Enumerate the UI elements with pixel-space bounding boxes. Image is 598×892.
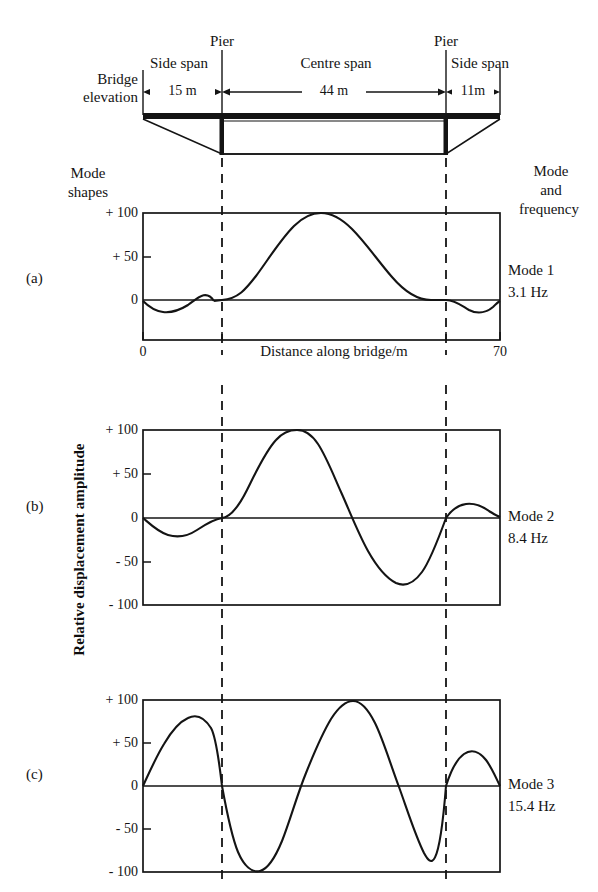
mode2-plot bbox=[143, 430, 500, 605]
pier-label-left: Pier bbox=[182, 33, 262, 50]
mode3-ytick-minus50: - 50 bbox=[62, 821, 138, 837]
mode2-plot-frame bbox=[143, 430, 500, 605]
panel-label-a: (a) bbox=[26, 270, 43, 287]
mode1-ytick-50: + 50 bbox=[62, 249, 138, 265]
mode2-ytick-50: + 50 bbox=[62, 466, 138, 482]
mode1-xaxis bbox=[143, 332, 500, 340]
mode1-frequency: 3.1 Hz bbox=[508, 284, 548, 301]
xaxis-tick-left: 0 bbox=[126, 344, 160, 360]
panel-label-b: (b) bbox=[26, 498, 44, 515]
mode1-ytick-0: 0 bbox=[62, 292, 138, 308]
mode3-plot-frame bbox=[143, 700, 500, 872]
mode3-ytick-0: 0 bbox=[62, 778, 138, 794]
bridge-elevation-label-line2: elevation bbox=[40, 89, 138, 106]
pier-label-right: Pier bbox=[406, 33, 486, 50]
xaxis-tick-right: 70 bbox=[483, 344, 517, 360]
mode-freq-title-line2: and bbox=[505, 182, 597, 199]
mode2-ytick-0: 0 bbox=[62, 510, 138, 526]
mode2-name: Mode 2 bbox=[508, 508, 554, 525]
mode1-name: Mode 1 bbox=[508, 262, 554, 279]
mode-freq-title-line1: Mode bbox=[505, 163, 597, 180]
mode3-name: Mode 3 bbox=[508, 776, 554, 793]
dimension-side-left: 15 m bbox=[150, 83, 215, 99]
centre-span-label: Centre span bbox=[276, 55, 396, 72]
mode3-ytick-50: + 50 bbox=[62, 735, 138, 751]
dimension-centre: 44 m bbox=[302, 83, 366, 99]
mode1-ytick-100: + 100 bbox=[62, 205, 138, 221]
dimension-side-right: 11m bbox=[452, 83, 494, 99]
panel-label-c: (c) bbox=[26, 766, 43, 783]
mode-freq-title-line3: frequency bbox=[501, 201, 597, 218]
mode2-ytick-100: + 100 bbox=[62, 422, 138, 438]
pier-reference-lines bbox=[222, 158, 446, 880]
mode1-plot bbox=[143, 213, 500, 340]
mode3-ytick-100: + 100 bbox=[62, 692, 138, 708]
mode-shapes-title-line1: Mode bbox=[38, 165, 138, 182]
bridge-elevation-label-line1: Bridge bbox=[40, 71, 138, 88]
figure-vector-layer bbox=[0, 0, 598, 892]
mode3-plot bbox=[143, 700, 500, 872]
mode3-ytick-minus100: - 100 bbox=[62, 864, 138, 880]
bridge-mode-shapes-figure: Pier Pier Side span Centre span Side spa… bbox=[0, 0, 598, 892]
mode2-curve bbox=[143, 430, 500, 585]
cropped-caption-text bbox=[0, 0, 598, 7]
mode2-ytick-minus50: - 50 bbox=[62, 554, 138, 570]
mode-shapes-title-line2: shapes bbox=[38, 184, 138, 201]
xaxis-title: Distance along bridge/m bbox=[238, 343, 430, 360]
mode3-curve bbox=[143, 701, 500, 871]
side-span-right-label: Side span bbox=[451, 55, 509, 72]
mode2-frequency: 8.4 Hz bbox=[508, 530, 548, 547]
mode2-ytick-minus100: - 100 bbox=[62, 597, 138, 613]
mode3-frequency: 15.4 Hz bbox=[508, 798, 556, 815]
mode1-plot-frame bbox=[143, 213, 500, 340]
mode1-curve bbox=[143, 213, 500, 312]
side-span-left-label: Side span bbox=[133, 55, 225, 72]
